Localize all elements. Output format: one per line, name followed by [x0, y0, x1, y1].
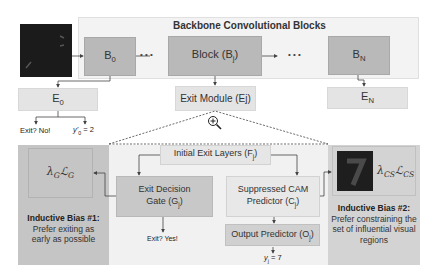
connector-lines — [0, 0, 438, 277]
magnifier-plus-icon — [209, 117, 222, 130]
